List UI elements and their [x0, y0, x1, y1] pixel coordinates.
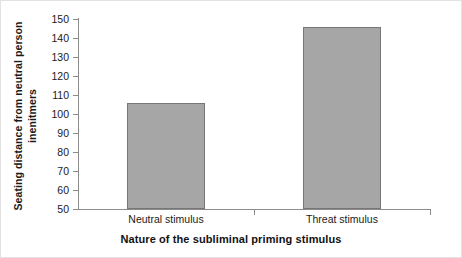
- y-axis-tick: 110: [52, 89, 78, 101]
- y-axis-tick-label: 110: [52, 89, 73, 101]
- bar-2[interactable]: [303, 27, 381, 209]
- y-axis-title-line-2: inenitmers: [25, 21, 39, 210]
- y-axis-tick: 130: [51, 51, 78, 63]
- y-axis-tick: 100: [51, 108, 78, 120]
- y-axis-tick-label: 50: [57, 203, 73, 215]
- y-axis-tick: 50: [57, 203, 78, 215]
- y-axis-tick-mark: [73, 57, 78, 58]
- y-axis-title: Seating distance from neutral person ine…: [3, 1, 47, 231]
- y-axis-tick-label: 120: [51, 70, 73, 82]
- y-axis-tick-mark: [73, 133, 78, 134]
- y-axis-tick-label: 60: [57, 184, 73, 196]
- y-axis-tick: 60: [57, 184, 78, 196]
- y-axis-tick-mark: [73, 95, 78, 96]
- y-axis-tick: 90: [57, 127, 78, 139]
- bar-1[interactable]: [127, 103, 205, 209]
- y-axis-tick-mark: [73, 19, 78, 20]
- y-axis-tick: 80: [57, 146, 78, 158]
- y-axis-tick-label: 140: [51, 32, 73, 44]
- x-axis-tick-mark: [430, 209, 431, 215]
- chart-figure: Seating distance from neutral person ine…: [0, 0, 462, 258]
- x-axis-title: Nature of the subliminal priming stimulu…: [1, 233, 461, 245]
- y-axis-tick-mark: [73, 209, 78, 210]
- y-axis-tick-label: 130: [51, 51, 73, 63]
- y-axis-tick-label: 100: [51, 108, 73, 120]
- y-axis-tick-mark: [73, 114, 78, 115]
- y-axis-tick-mark: [73, 38, 78, 39]
- y-axis-title-line-1: Seating distance from neutral person: [11, 21, 25, 210]
- y-axis-tick: 150: [51, 13, 78, 25]
- y-axis-tick-mark: [73, 171, 78, 172]
- y-axis-tick-mark: [73, 190, 78, 191]
- y-axis-tick-label: 80: [57, 146, 73, 158]
- y-axis-tick-mark: [73, 76, 78, 77]
- y-axis-tick-label: 150: [51, 13, 73, 25]
- x-axis-category-label: Neutral stimulus: [128, 213, 203, 225]
- y-axis-tick-label: 90: [57, 127, 73, 139]
- y-axis-tick-mark: [73, 152, 78, 153]
- y-axis-tick: 70: [57, 165, 78, 177]
- y-axis-tick: 120: [51, 70, 78, 82]
- x-axis-category-label: Threat stimulus: [306, 213, 378, 225]
- plot-area: 1501401301201101009080706050: [78, 19, 430, 209]
- y-axis-tick-label: 70: [57, 165, 73, 177]
- y-axis-tick: 140: [51, 32, 78, 44]
- x-axis-tick-mark: [254, 209, 255, 215]
